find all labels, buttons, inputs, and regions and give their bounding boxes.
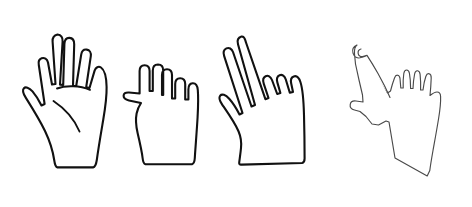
hand-gesture-illustrations-panel bbox=[23, 35, 305, 168]
open-palm-hand bbox=[23, 35, 107, 168]
hand-keypoint-skeleton-panel bbox=[350, 45, 440, 176]
hand-gesture-figure bbox=[0, 0, 472, 207]
open-palm-hand-outline bbox=[23, 35, 107, 168]
peace-sign-hand bbox=[219, 36, 304, 164]
closed-fist-hand bbox=[124, 65, 199, 165]
figure-canvas bbox=[0, 0, 472, 207]
peace-sign-hand-outline bbox=[219, 36, 304, 164]
skeleton-hand-outline bbox=[350, 45, 440, 176]
closed-fist-hand-outline bbox=[124, 65, 199, 165]
annotated-skeleton-hand bbox=[350, 45, 440, 176]
